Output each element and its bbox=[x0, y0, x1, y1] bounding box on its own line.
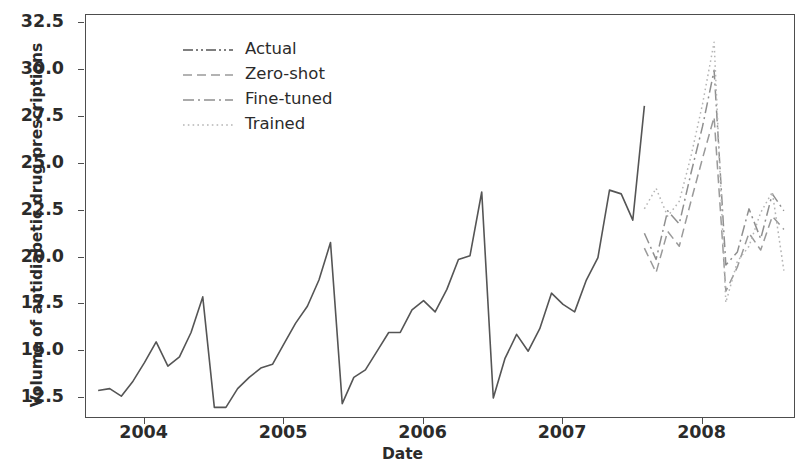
x-tick-label: 2004 bbox=[119, 424, 168, 442]
y-tick-mark bbox=[78, 69, 84, 70]
x-tick-mark bbox=[423, 418, 424, 424]
legend-label: Zero-shot bbox=[245, 66, 325, 83]
legend-line-swatch bbox=[182, 93, 234, 107]
y-tick-mark bbox=[78, 210, 84, 211]
legend-item-zero-shot[interactable]: Zero-shot bbox=[182, 62, 392, 87]
plot-area: ActualZero-shotFine-tunedTrained bbox=[85, 14, 795, 418]
x-tick-label: 2008 bbox=[677, 424, 726, 442]
legend-item-actual[interactable]: Actual bbox=[182, 37, 392, 62]
x-tick-label: 2005 bbox=[259, 424, 308, 442]
chart-legend: ActualZero-shotFine-tunedTrained bbox=[182, 37, 392, 137]
y-tick-mark bbox=[78, 163, 84, 164]
y-tick-mark bbox=[78, 397, 84, 398]
series-line-fine-tuned bbox=[644, 70, 783, 265]
legend-label: Fine-tuned bbox=[245, 91, 332, 108]
legend-line-swatch bbox=[182, 43, 234, 57]
legend-item-trained[interactable]: Trained bbox=[182, 112, 392, 137]
y-tick-mark bbox=[78, 350, 84, 351]
legend-label: Trained bbox=[245, 116, 305, 133]
series-line-zero-shot bbox=[644, 117, 783, 291]
y-tick-mark bbox=[78, 257, 84, 258]
x-axis-title: Date bbox=[0, 445, 805, 461]
x-tick-label: 2006 bbox=[398, 424, 447, 442]
legend-line-swatch bbox=[182, 118, 234, 132]
y-tick-mark bbox=[78, 303, 84, 304]
x-tick-mark bbox=[144, 418, 145, 424]
legend-line-swatch bbox=[182, 68, 234, 82]
y-tick-mark bbox=[78, 116, 84, 117]
x-tick-mark bbox=[702, 418, 703, 424]
x-tick-mark bbox=[562, 418, 563, 424]
y-tick-mark bbox=[78, 22, 84, 23]
legend-label: Actual bbox=[245, 41, 297, 58]
series-line-actual bbox=[98, 106, 644, 408]
x-tick-mark bbox=[283, 418, 284, 424]
y-axis-title: Volume of antidiabetic drug prescription… bbox=[28, 15, 46, 435]
x-tick-label: 2007 bbox=[538, 424, 587, 442]
chart-figure: 12.515.017.520.022.525.027.530.032.5 Vol… bbox=[0, 0, 805, 461]
legend-item-fine-tuned[interactable]: Fine-tuned bbox=[182, 87, 392, 112]
series-line-trained bbox=[644, 42, 783, 302]
